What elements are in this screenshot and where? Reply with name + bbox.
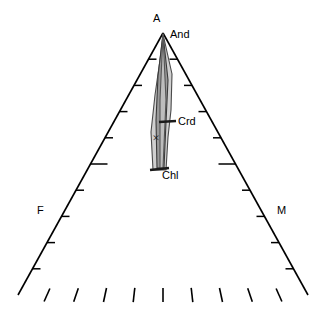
tie-line-crd — [159, 121, 176, 122]
label-chl: Chl — [162, 170, 179, 181]
tick-bottom-8 — [248, 288, 253, 302]
vertex-label-m: M — [277, 205, 286, 216]
ternary-diagram-canvas: × AAndCrdChlFM — [0, 0, 326, 311]
apex-label-and: And — [170, 29, 190, 40]
tick-bottom-3 — [104, 288, 107, 302]
vertex-label-f: F — [37, 205, 44, 216]
tick-bottom-4 — [133, 288, 135, 302]
apex-label-a: A — [153, 13, 160, 24]
phase-fields — [151, 34, 172, 170]
tick-bottom-2 — [74, 288, 79, 302]
data-point-x: × — [152, 130, 161, 145]
label-crd: Crd — [178, 116, 196, 127]
tick-bottom-6 — [191, 288, 193, 302]
tick-bottom-9 — [276, 289, 282, 302]
tick-bottom-7 — [220, 288, 223, 302]
tick-bottom-1 — [44, 289, 50, 302]
diagram-svg: × — [0, 0, 326, 311]
